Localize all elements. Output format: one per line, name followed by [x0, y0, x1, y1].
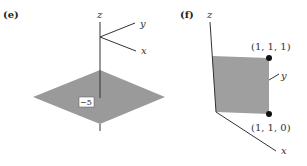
- y-axis: [100, 23, 135, 37]
- point-label-1-1-1: (1, 1, 1): [251, 41, 291, 52]
- panel-f-label: (f): [180, 9, 194, 20]
- vertical-plane: [212, 56, 269, 114]
- panel-e-label: (e): [3, 9, 19, 20]
- point-label-1-1-0: (1, 1, 0): [251, 122, 291, 133]
- point-1-1-1: [266, 55, 272, 61]
- z-axis-label: z: [96, 9, 103, 20]
- plane-value-label: −5: [80, 98, 92, 107]
- x-axis-label: x: [141, 45, 147, 56]
- y-axis: [269, 74, 279, 80]
- z-axis-label: z: [206, 9, 213, 20]
- x-axis-label: x: [281, 145, 287, 156]
- y-axis-label: y: [280, 70, 287, 81]
- panel-f: (f) z y x (1, 1, 1) (1, 1, 0): [180, 9, 291, 156]
- x-axis: [100, 37, 136, 51]
- y-axis-label: y: [139, 18, 146, 29]
- point-1-1-0: [266, 111, 272, 117]
- figure-canvas: (e) z y x −5 (f) z y x (1, 1, 1): [0, 0, 307, 166]
- horizontal-plane: [33, 70, 165, 124]
- panel-e: (e) z y x −5: [3, 9, 165, 131]
